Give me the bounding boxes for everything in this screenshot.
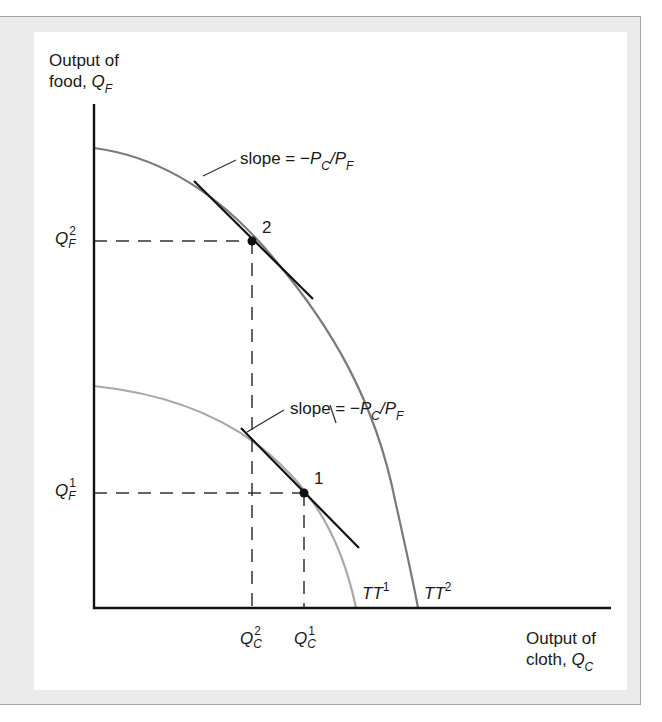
y-axis-label-line1: Output of — [49, 50, 119, 71]
y-axis-label-text: food, — [49, 72, 87, 91]
x-axis-symbol: Q — [571, 650, 584, 669]
x-axis-symbol-sub: C — [585, 660, 594, 674]
point-2-marker — [248, 237, 257, 246]
x-axis-label: Output of cloth, QC — [526, 628, 596, 672]
x-tick-symbol: Q — [240, 629, 253, 648]
tt1-name: TT — [362, 584, 383, 603]
point-1-marker — [300, 489, 309, 498]
slope-text: slope = − — [290, 399, 360, 418]
y-tick-symbol: Q — [55, 481, 68, 500]
point-2-label: 2 — [262, 217, 271, 238]
slope-text: slope = − — [240, 149, 310, 168]
y-tick-symbol: Q — [55, 229, 68, 248]
ppf-diagram — [0, 0, 662, 722]
price-cloth: P — [310, 149, 321, 168]
x-tick-sub: C — [307, 634, 316, 655]
y-tick-sub: F — [68, 486, 75, 507]
tt2-name: TT — [424, 584, 445, 603]
tt1-label: TT1 — [362, 583, 389, 606]
tt1-sup: 1 — [383, 580, 390, 594]
x-tick-sub: C — [253, 634, 262, 655]
price-food-sub: F — [396, 409, 403, 423]
y-axis-label: Output of food, QF — [49, 50, 119, 94]
y-axis-label-line2: food, QF — [49, 71, 119, 94]
x-axis-label-line1: Output of — [526, 628, 596, 649]
y-axis-symbol: Q — [92, 72, 105, 91]
price-food-sub: F — [346, 159, 353, 173]
tt2-curve — [94, 148, 418, 608]
y-tick-sub: F — [68, 234, 75, 255]
tangent-line-1 — [241, 428, 359, 548]
y-tick-qf1: Q1F — [55, 480, 78, 501]
price-cloth-sub: C — [371, 409, 380, 423]
price-cloth-sub: C — [321, 159, 330, 173]
tt2-sup: 2 — [445, 580, 452, 594]
x-tick-symbol: Q — [294, 629, 307, 648]
slope-label-lower: slope = −PC/PF — [290, 398, 403, 421]
x-axis-label-text: cloth, — [526, 650, 567, 669]
x-tick-qc1: Q1C — [294, 628, 317, 649]
y-tick-qf2: Q2F — [55, 228, 78, 249]
slope-label-upper: slope = −PC/PF — [240, 148, 353, 171]
price-food: P — [385, 399, 396, 418]
price-food: P — [335, 149, 346, 168]
tt2-label: TT2 — [424, 583, 451, 606]
y-axis-symbol-sub: F — [105, 82, 112, 96]
price-cloth: P — [360, 399, 371, 418]
point-1-label: 1 — [314, 468, 323, 489]
slope-leader-upper — [203, 160, 236, 176]
x-tick-qc2: Q2C — [240, 628, 263, 649]
x-axis-label-line2: cloth, QC — [526, 649, 596, 672]
